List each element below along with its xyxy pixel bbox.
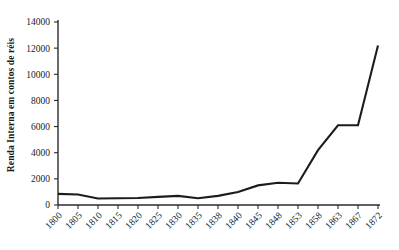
x-tick-label: 1853 xyxy=(283,210,304,231)
y-tick-label: 6000 xyxy=(31,122,50,132)
x-tick-label: 1825 xyxy=(143,210,164,231)
x-tick-label: 1838 xyxy=(203,210,224,231)
x-tick-label: 1858 xyxy=(303,210,324,231)
y-tick-label: 12000 xyxy=(26,44,50,54)
x-tick-label: 1820 xyxy=(123,210,144,231)
chart-container: Renda Interna em contos de réis 02000400… xyxy=(0,0,399,250)
x-tick-label: 1848 xyxy=(263,210,284,231)
x-tick-label: 1863 xyxy=(323,210,344,231)
y-tick-label: 0 xyxy=(45,200,50,210)
y-tick-label: 8000 xyxy=(31,96,50,106)
data-line xyxy=(58,46,378,199)
x-tick-label: 1830 xyxy=(163,210,184,231)
y-tick-label: 14000 xyxy=(26,17,50,27)
x-tick-label: 1867 xyxy=(343,210,364,231)
data-series-group xyxy=(58,46,378,199)
x-tick-label: 1805 xyxy=(63,210,84,231)
x-tick-label: 1872 xyxy=(363,210,384,231)
x-tick-label: 1840 xyxy=(223,210,244,231)
x-tick-label: 1810 xyxy=(83,210,104,231)
y-axis: 02000400060008000100001200014000 xyxy=(26,17,58,210)
y-tick-label: 4000 xyxy=(31,148,50,158)
y-tick-label: 10000 xyxy=(26,70,50,80)
x-tick-label: 1800 xyxy=(43,210,64,231)
line-chart-plot: 02000400060008000100001200014000 1800180… xyxy=(0,0,399,250)
x-tick-label: 1835 xyxy=(183,210,204,231)
x-axis: 1800180518101815182018251830183518381840… xyxy=(43,205,384,231)
x-tick-label: 1845 xyxy=(243,210,264,231)
y-tick-label: 2000 xyxy=(31,174,50,184)
x-tick-label: 1815 xyxy=(103,210,124,231)
